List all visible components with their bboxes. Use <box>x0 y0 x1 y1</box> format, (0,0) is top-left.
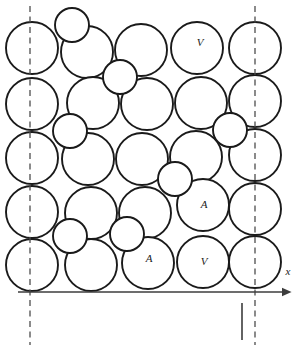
x-axis-label: x <box>285 265 291 277</box>
host-circle <box>6 22 58 74</box>
host-circle <box>6 239 58 291</box>
interstitial-diagonal-1 <box>55 8 89 42</box>
host-circle-layer <box>6 22 281 291</box>
interstitial-diagonal-4 <box>53 219 87 253</box>
host-circle <box>6 132 58 184</box>
host-circle <box>6 186 58 238</box>
interstitial-horizontal-1 <box>213 113 247 147</box>
lattice-figure: x VAAV <box>0 0 301 351</box>
lattice-diagram-canvas: x VAAV <box>0 0 301 351</box>
x-axis-arrowhead <box>282 288 292 297</box>
interstitial-vertical-1 <box>53 114 87 148</box>
interstitial-diagonal-3 <box>158 162 192 196</box>
interstitial-diagonal-2 <box>103 60 137 94</box>
interstitial-diagonal-5 <box>110 217 144 251</box>
host-circle <box>6 78 58 130</box>
site-label-a-bottom: A <box>145 252 153 264</box>
host-circle <box>171 22 223 74</box>
site-label-a-mid: A <box>200 198 208 210</box>
